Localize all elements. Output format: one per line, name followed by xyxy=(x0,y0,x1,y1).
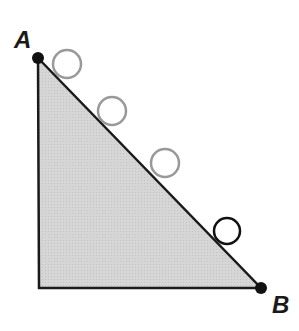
point-a xyxy=(32,52,44,64)
ball-ghost-3 xyxy=(151,149,179,177)
label-a: A xyxy=(13,26,31,53)
incline-triangle xyxy=(38,58,261,288)
ball-current xyxy=(214,218,240,244)
ball-ghost-1 xyxy=(53,50,81,78)
point-b xyxy=(255,282,267,294)
incline-diagram: A B xyxy=(0,0,299,331)
label-b: B xyxy=(272,291,289,318)
ball-ghost-2 xyxy=(98,97,126,125)
